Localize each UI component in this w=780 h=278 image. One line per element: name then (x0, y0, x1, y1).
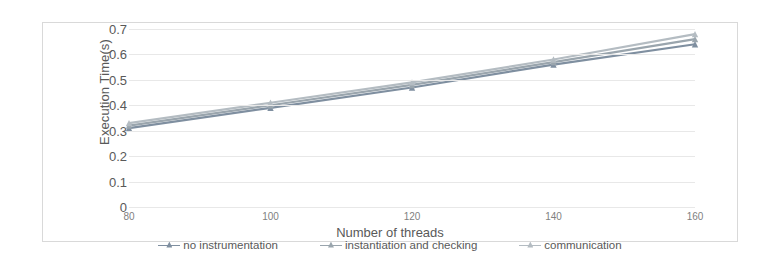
plot-area (129, 29, 695, 207)
chart-frame: Execution Time(s) 0.70.60.50.40.30.20.10… (42, 22, 738, 242)
legend-marker-icon (320, 241, 342, 250)
legend-item[interactable]: no instrumentation (158, 239, 278, 251)
x-axis-tick-label: 160 (687, 211, 704, 222)
y-axis-tick-label: 0.5 (109, 72, 127, 87)
x-axis-tick-label: 120 (404, 211, 421, 222)
gridline (129, 207, 695, 208)
gridline (129, 156, 695, 157)
y-axis-tick-label: 0.6 (109, 47, 127, 62)
y-axis-tick-label: 0.2 (109, 149, 127, 164)
gridline (129, 131, 695, 132)
x-axis-tick-label: 100 (262, 211, 279, 222)
legend-label: communication (544, 239, 621, 251)
gridline (129, 29, 695, 30)
legend-marker-icon (158, 241, 180, 250)
legend-item[interactable]: communication (519, 239, 621, 251)
x-axis-tick-label: 140 (545, 211, 562, 222)
chart-legend: no instrumentationinstantiation and chec… (43, 237, 737, 253)
gridline (129, 182, 695, 183)
series-line (129, 34, 695, 123)
series-lines (129, 29, 695, 207)
legend-marker-icon (519, 241, 541, 250)
legend-label: instantiation and checking (345, 239, 477, 251)
x-axis-tick-label: 80 (123, 211, 134, 222)
gridline (129, 80, 695, 81)
y-axis-tick-label: 0.4 (109, 98, 127, 113)
y-axis-tick-label: 0.7 (109, 22, 127, 37)
chart-plot-wrapper: Execution Time(s) 0.70.60.50.40.30.20.10… (43, 23, 737, 241)
legend-label: no instrumentation (183, 239, 278, 251)
gridline (129, 105, 695, 106)
y-axis-tick-label: 0.3 (109, 123, 127, 138)
legend-item[interactable]: instantiation and checking (320, 239, 477, 251)
y-axis-tick-label: 0.1 (109, 174, 127, 189)
y-axis-tick-labels: 0.70.60.50.40.30.20.10 (91, 23, 131, 241)
gridline (129, 54, 695, 55)
